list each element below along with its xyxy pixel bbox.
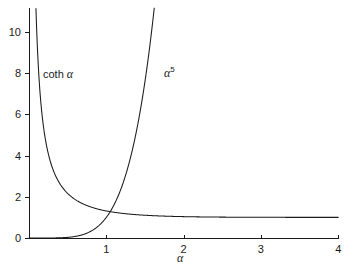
x-axis-title: α [177,252,183,264]
axes-group [25,8,339,239]
x-tick-label: 3 [246,244,276,255]
y-axis-ticks [25,33,30,239]
curve-coth-alpha [36,8,338,217]
y-tick-label: 4 [0,151,21,162]
x-axis-ticks [107,235,339,239]
x-tick-label: 4 [323,244,353,255]
y-tick-label: 10 [0,27,21,38]
chart-figure: 0246810 1234 coth α α5 α [0,0,353,273]
x-tick-label: 2 [169,244,199,255]
series-group [29,8,338,238]
x-tick-label: 1 [91,244,121,255]
annotation-coth-alpha: coth α [43,68,73,80]
y-tick-label: 8 [0,68,21,79]
y-tick-label: 0 [0,233,21,244]
annotation-alpha-fifth: α5 [164,66,175,79]
y-tick-label: 2 [0,192,21,203]
plot-area [0,0,353,273]
curve-alpha-fifth [29,8,154,238]
y-tick-label: 6 [0,109,21,120]
